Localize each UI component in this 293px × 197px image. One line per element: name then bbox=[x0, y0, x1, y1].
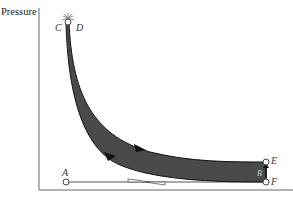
point-label-b: B bbox=[257, 169, 262, 178]
point-label-f: F bbox=[271, 176, 277, 187]
point-f bbox=[263, 179, 269, 185]
point-label-c: C bbox=[55, 22, 62, 33]
point-label-d: D bbox=[76, 22, 83, 33]
point-label-e: E bbox=[271, 155, 277, 166]
diagram-canvas bbox=[0, 0, 293, 197]
cycle-loop bbox=[66, 22, 266, 182]
arrow-icon bbox=[128, 179, 150, 182]
point-e bbox=[263, 159, 269, 165]
point-cd bbox=[65, 19, 71, 25]
point-label-a: A bbox=[62, 167, 68, 178]
point-a bbox=[63, 179, 69, 185]
arrow-icon bbox=[145, 182, 165, 185]
